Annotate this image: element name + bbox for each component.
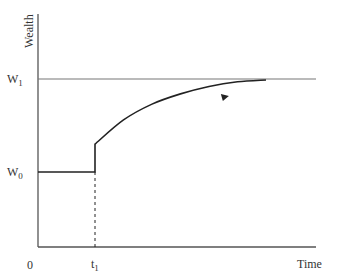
y-axis-label: Wealth <box>22 14 36 48</box>
wealth-diagram: Wealth Time 0 W1W0 t1 <box>0 0 345 275</box>
direction-arrow-icon <box>221 94 229 101</box>
x-tick-subscript: 1 <box>94 263 99 273</box>
y-tick-label-W1: W1 <box>7 72 23 88</box>
x-axis-label: Time <box>297 257 322 271</box>
y-tick-subscript: 1 <box>18 78 23 88</box>
y-tick-subscript: 0 <box>18 171 23 181</box>
x-tick-label-t1: t1 <box>91 257 99 273</box>
origin-label: 0 <box>27 258 33 272</box>
wealth-path-curve <box>38 80 266 172</box>
y-tick-label-W0: W0 <box>7 165 23 181</box>
